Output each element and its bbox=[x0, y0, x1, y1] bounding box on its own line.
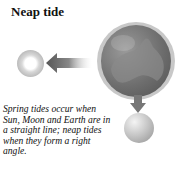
arrow-left-icon bbox=[44, 50, 92, 76]
diagram-title: Neap tide bbox=[11, 4, 64, 20]
arrow-down-icon bbox=[130, 95, 146, 113]
moon-bottom-icon bbox=[124, 113, 154, 143]
caption-text: Spring tides occur when Sun, Moon and Ea… bbox=[3, 104, 113, 157]
earth-icon bbox=[101, 25, 171, 97]
moon-left-icon bbox=[17, 50, 44, 77]
